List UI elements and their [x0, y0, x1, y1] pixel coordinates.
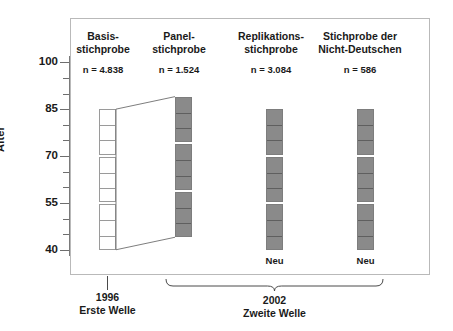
bar-basis[interactable]: [99, 109, 116, 250]
bar-segment-group: [175, 97, 192, 143]
wave-label-wave2: 2002Zweite Welle: [205, 294, 345, 320]
bar-segment-group: [266, 204, 283, 250]
neu-label-nicht-deutsche: Neu: [337, 255, 394, 266]
bar-cell: [100, 158, 115, 173]
column-sample-size: n = 1.524: [146, 64, 212, 75]
wave-name: Zweite Welle: [205, 307, 345, 320]
wave2-brace: [166, 279, 383, 291]
bar-cell: [100, 140, 115, 155]
bar-segment-group: [99, 204, 116, 250]
bar-cell: [176, 145, 191, 160]
bar-segment-group: [266, 157, 283, 203]
column-title-line1: Panel-: [146, 30, 212, 43]
y-axis-title: Alter: [0, 126, 6, 152]
y-tick-major: [60, 62, 69, 63]
bar-cell: [267, 125, 282, 140]
neu-label-replikation: Neu: [246, 255, 303, 266]
bar-cell: [176, 113, 191, 128]
bar-cell: [267, 140, 282, 155]
figure-canvas: Alter 40557085100 Basis-stichproben = 4.…: [0, 0, 453, 331]
y-tick-minor: [63, 140, 69, 141]
column-title-line1: Basis-: [70, 30, 136, 43]
wave-year: 2002: [205, 294, 345, 307]
y-tick-major: [60, 250, 69, 251]
wave-year: 1996: [48, 291, 168, 304]
column-sample-size: n = 3.084: [221, 64, 321, 75]
column-title-line2: stichprobe: [146, 43, 212, 56]
y-tick-label: 70: [18, 149, 58, 161]
bar-cell: [100, 220, 115, 235]
bar-cell: [176, 208, 191, 223]
y-tick-minor: [63, 125, 69, 126]
bar-cell: [267, 236, 282, 251]
y-tick-minor: [63, 187, 69, 188]
bar-panel[interactable]: [175, 97, 192, 238]
y-tick-minor: [63, 94, 69, 95]
column-sample-size: n = 586: [308, 64, 412, 75]
bar-cell: [267, 158, 282, 173]
bar-cell: [100, 125, 115, 140]
bar-cell: [267, 220, 282, 235]
column-title-line1: Replikations-: [221, 30, 321, 43]
bar-cell: [267, 110, 282, 125]
bar-segment-group: [357, 204, 374, 250]
column-sample-size: n = 4.838: [70, 64, 136, 75]
bar-segment-group: [357, 109, 374, 155]
y-axis-line: [69, 56, 70, 256]
bar-cell: [176, 98, 191, 113]
column-header-nicht-deutsche: Stichprobe derNicht-Deutschenn = 586: [308, 30, 412, 75]
bar-nicht-deutsche[interactable]: [357, 109, 374, 250]
bar-cell: [176, 128, 191, 143]
bar-segment-group: [175, 144, 192, 190]
bar-cell: [100, 110, 115, 125]
bar-cell: [358, 236, 373, 251]
bar-segment-group: [99, 157, 116, 203]
y-tick-minor: [63, 172, 69, 173]
bar-segment-group: [357, 157, 374, 203]
y-tick-label: 40: [18, 243, 58, 255]
bar-cell: [267, 173, 282, 188]
bar-cell: [100, 205, 115, 220]
bar-cell: [358, 110, 373, 125]
bar-cell: [358, 188, 373, 203]
bar-segment-group: [175, 192, 192, 238]
wave-name: Erste Welle: [48, 304, 168, 317]
y-tick-label: 55: [18, 196, 58, 208]
bar-cell: [100, 236, 115, 251]
y-tick-major: [60, 109, 69, 110]
column-title-line2: stichprobe: [70, 43, 136, 56]
y-tick-minor: [63, 78, 69, 79]
bar-cell: [358, 158, 373, 173]
column-title-line1: Stichprobe der: [308, 30, 412, 43]
column-title-line2: stichprobe: [221, 43, 321, 56]
bar-cell: [176, 160, 191, 175]
bar-cell: [267, 205, 282, 220]
bar-cell: [176, 223, 191, 238]
bar-cell: [358, 173, 373, 188]
wave-label-wave1: 1996Erste Welle: [48, 291, 168, 317]
bar-replikation[interactable]: [266, 109, 283, 250]
y-tick-minor: [63, 219, 69, 220]
bar-cell: [176, 176, 191, 191]
y-tick-major: [60, 156, 69, 157]
bar-segment-group: [266, 109, 283, 155]
bar-cell: [267, 188, 282, 203]
bar-cell: [358, 140, 373, 155]
y-tick-major: [60, 203, 69, 204]
y-tick-label: 85: [18, 102, 58, 114]
y-tick-label: 100: [18, 55, 58, 67]
bar-cell: [358, 125, 373, 140]
bar-segment-group: [99, 109, 116, 155]
bar-cell: [176, 193, 191, 208]
column-title-line2: Nicht-Deutschen: [308, 43, 412, 56]
column-header-replikation: Replikations-stichproben = 3.084: [221, 30, 321, 75]
bar-cell: [100, 173, 115, 188]
y-tick-minor: [63, 234, 69, 235]
bar-cell: [358, 205, 373, 220]
bar-cell: [100, 188, 115, 203]
column-header-basis: Basis-stichproben = 4.838: [70, 30, 136, 75]
column-header-panel: Panel-stichproben = 1.524: [146, 30, 212, 75]
bar-cell: [358, 220, 373, 235]
